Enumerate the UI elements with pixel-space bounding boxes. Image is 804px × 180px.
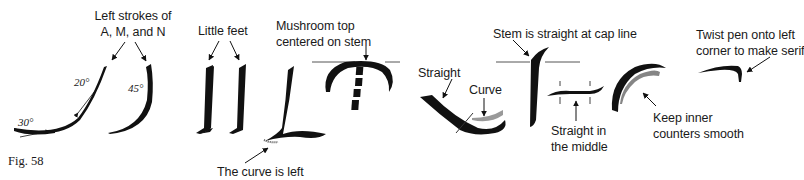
stroke-serif: [698, 66, 742, 82]
keep-inner-line1: Keep inner: [653, 110, 744, 126]
arrow-icon: [747, 57, 770, 72]
left-strokes-label: Left strokes of A, M, and N: [88, 8, 178, 40]
arrow-icon: [443, 79, 452, 98]
little-feet-label: Little feet: [198, 23, 248, 39]
straight-middle-line1: Straight in: [551, 123, 608, 139]
mushroom-line2: centered on stem: [276, 34, 371, 50]
keep-inner-label: Keep inner counters smooth: [653, 110, 744, 142]
twist-pen-line2: corner to make serif: [696, 43, 804, 59]
arrow-icon: [245, 148, 268, 163]
twist-pen-label: Twist pen onto left corner to make serif: [696, 27, 804, 59]
arrow-icon: [209, 41, 219, 60]
straight-middle-line2: the middle: [551, 139, 608, 155]
stroke-straight-middle: [547, 81, 604, 104]
stroke-little-feet-1: [196, 65, 214, 134]
mushroom-label: Mushroom top centered on stem: [276, 18, 371, 50]
straight-label: Straight: [418, 65, 460, 81]
arrow-icon: [513, 40, 529, 56]
stroke-straight-curve: [420, 95, 506, 134]
stroke-left-b: [108, 64, 153, 134]
curve-is-left-label: The curve is left: [217, 164, 304, 180]
mushroom-line1: Mushroom top: [276, 18, 371, 34]
stroke-stem-cap: [496, 47, 580, 127]
angle-30-label: 30°: [17, 116, 34, 128]
arrow-icon: [643, 93, 656, 106]
arrow-icon: [230, 41, 239, 60]
stroke-little-feet-2: [229, 64, 246, 134]
left-strokes-line1: Left strokes of: [88, 8, 178, 24]
stroke-inner-counter: [612, 64, 666, 112]
curve-label: Curve: [469, 82, 502, 98]
angle-20-label: 20°: [74, 76, 90, 88]
angle-45-label: 45°: [128, 82, 144, 94]
arrow-icon: [112, 42, 125, 60]
keep-inner-line2: counters smooth: [653, 126, 744, 142]
figure-label: Fig. 58: [8, 154, 43, 169]
straight-middle-label: Straight in the middle: [551, 123, 608, 155]
stroke-mushroom-top: [312, 61, 400, 110]
twist-pen-line1: Twist pen onto left: [696, 27, 804, 43]
stroke-l: [264, 66, 326, 142]
stem-straight-label: Stem is straight at cap line: [493, 26, 637, 42]
left-strokes-line2: A, M, and N: [88, 24, 178, 40]
arrow-icon: [135, 42, 146, 61]
